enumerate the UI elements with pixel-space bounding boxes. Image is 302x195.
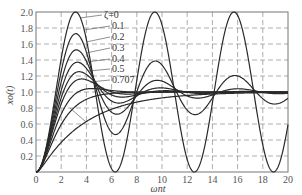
x-tick-label: 14 bbox=[207, 174, 217, 185]
y-tick-label: 1.4 bbox=[21, 55, 34, 66]
y-axis-label: xo(t) bbox=[4, 85, 16, 106]
y-tick-label: 0.8 bbox=[21, 103, 34, 114]
y-tick-label: 1.8 bbox=[21, 23, 34, 34]
x-tick-label: 2 bbox=[59, 174, 64, 185]
label-zeta-0.3: 0.3 bbox=[112, 42, 125, 53]
x-tick-label: 20 bbox=[283, 174, 293, 185]
step-response-chart: 024681012141618200.20.40.60.81.01.21.41.… bbox=[0, 0, 302, 195]
x-tick-label: 12 bbox=[182, 174, 192, 185]
label-zeta-0.707: 0.707 bbox=[112, 74, 135, 85]
leader-line bbox=[86, 37, 110, 42]
y-tick-label: 1.2 bbox=[21, 71, 34, 82]
x-tick-label: 16 bbox=[233, 174, 243, 185]
y-tick-label: 0.2 bbox=[21, 151, 34, 162]
leader-line bbox=[80, 15, 102, 18]
x-tick-label: 0 bbox=[34, 174, 39, 185]
y-tick-label: 0.4 bbox=[21, 135, 34, 146]
leader-line bbox=[86, 48, 110, 53]
leader-line bbox=[70, 108, 86, 122]
y-tick-label: 2.0 bbox=[21, 7, 34, 18]
y-tick-label: 1.0 bbox=[21, 87, 34, 98]
x-tick-label: 4 bbox=[84, 174, 89, 185]
label-zeta-0.2: 0.2 bbox=[112, 31, 125, 42]
label-zeta-0.5: 0.5 bbox=[112, 63, 125, 74]
x-axis-label: ωnt bbox=[151, 183, 166, 194]
x-tick-label: 18 bbox=[258, 174, 268, 185]
label-zeta-0.1: 0.1 bbox=[112, 20, 125, 31]
x-tick-label: 8 bbox=[134, 174, 139, 185]
x-tick-label: 6 bbox=[109, 174, 114, 185]
y-tick-label: 0.6 bbox=[21, 119, 34, 130]
y-tick-label: 1.6 bbox=[21, 39, 34, 50]
